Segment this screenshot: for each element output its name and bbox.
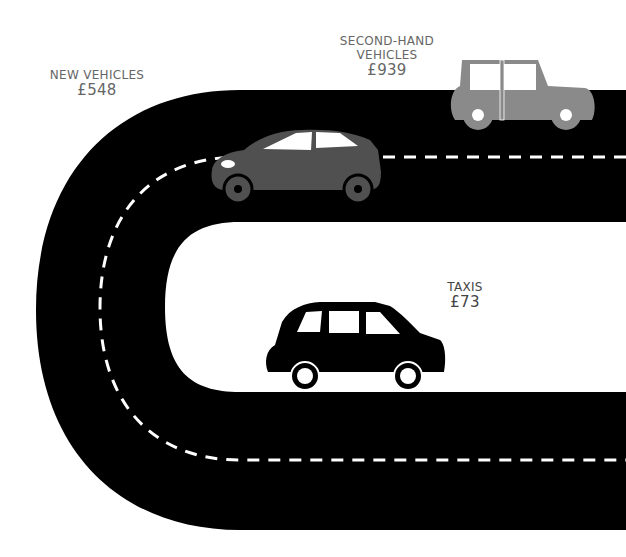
new-vehicles-label: NEW VEHICLES £548 (42, 68, 152, 99)
taxis-price: £73 (430, 294, 500, 311)
second-hand-car-icon (451, 60, 595, 130)
second-hand-name-line2: VEHICLES (332, 48, 442, 62)
second-hand-price: £939 (332, 62, 442, 79)
second-hand-name-line1: SECOND-HAND (332, 34, 442, 48)
taxis-label: TAXIS £73 (430, 280, 500, 311)
new-vehicles-price: £548 (42, 82, 152, 99)
new-vehicles-name: NEW VEHICLES (42, 68, 152, 82)
taxi-icon (266, 302, 445, 390)
taxis-name: TAXIS (430, 280, 500, 294)
second-hand-vehicles-label: SECOND-HAND VEHICLES £939 (332, 34, 442, 79)
